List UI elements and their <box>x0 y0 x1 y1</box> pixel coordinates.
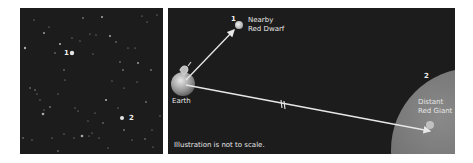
star <box>42 113 45 116</box>
arrow-to-red-giant <box>186 85 430 131</box>
star-2-marker: 2 <box>129 114 134 122</box>
star <box>117 107 118 108</box>
star <box>109 35 111 37</box>
star <box>137 62 139 64</box>
star-1-marker: 1 <box>64 49 69 57</box>
star <box>144 138 145 139</box>
star <box>151 129 152 130</box>
red-giant-label-line2: Red Giant <box>418 107 452 115</box>
star <box>81 135 84 138</box>
star <box>71 37 72 38</box>
earth-globe <box>171 72 195 96</box>
red-giant-flare <box>426 121 434 129</box>
star <box>95 34 96 35</box>
star <box>31 139 32 140</box>
star <box>24 47 26 49</box>
highlighted-star-2 <box>120 116 124 120</box>
star <box>89 33 90 34</box>
red-dwarf-number: 1 <box>231 15 236 23</box>
star <box>74 107 75 108</box>
star <box>57 93 58 94</box>
star <box>123 87 124 88</box>
star <box>51 137 52 138</box>
star <box>43 109 44 110</box>
star <box>36 93 37 94</box>
red-dwarf-star <box>235 21 243 29</box>
star <box>63 69 64 70</box>
star <box>102 122 103 123</box>
star <box>152 146 153 147</box>
star <box>141 15 142 16</box>
star <box>123 129 125 131</box>
starfield-image <box>20 8 163 154</box>
star <box>150 69 152 71</box>
star <box>22 137 23 138</box>
star <box>98 137 99 138</box>
highlighted-star-1 <box>70 51 74 55</box>
star <box>34 89 35 90</box>
star <box>134 47 135 48</box>
star <box>64 79 65 80</box>
star <box>77 110 78 111</box>
red-dwarf-label-line1: Nearby <box>248 16 273 24</box>
star <box>54 52 55 53</box>
star <box>146 21 147 22</box>
distance-break-icon <box>281 100 285 109</box>
star <box>91 132 92 133</box>
star <box>145 101 147 103</box>
star <box>159 115 160 116</box>
star <box>105 99 107 101</box>
distance-illustration-panel: Earth 1 Nearby Red Dwarf 2 Distant Red G… <box>168 8 455 154</box>
star <box>122 69 124 71</box>
star <box>107 147 108 148</box>
distance-diagram <box>168 8 455 154</box>
star <box>115 41 116 42</box>
starfield-panel: 1 2 <box>20 8 163 154</box>
star <box>43 32 45 34</box>
earth-label: Earth <box>172 97 191 105</box>
red-giant-number: 2 <box>424 72 429 80</box>
star <box>29 87 30 88</box>
star <box>73 137 74 138</box>
arrow-to-red-dwarf <box>186 30 234 80</box>
star <box>119 61 120 62</box>
star <box>92 53 93 54</box>
star <box>88 135 89 136</box>
star <box>49 106 51 108</box>
star <box>127 47 128 48</box>
star <box>111 80 112 81</box>
star <box>48 26 49 27</box>
star <box>131 139 132 140</box>
star <box>94 112 95 113</box>
star <box>156 14 157 15</box>
star <box>101 16 103 18</box>
star <box>87 120 88 121</box>
star <box>39 99 40 100</box>
scale-disclaimer: Illustration is not to scale. <box>174 141 265 149</box>
red-giant-label-line1: Distant <box>418 98 443 106</box>
star <box>33 19 34 20</box>
star <box>136 81 137 82</box>
star <box>79 40 80 41</box>
star <box>63 133 64 134</box>
star <box>59 43 61 45</box>
star <box>82 17 84 19</box>
red-dwarf-label-line2: Red Dwarf <box>248 25 284 33</box>
star <box>57 150 58 151</box>
